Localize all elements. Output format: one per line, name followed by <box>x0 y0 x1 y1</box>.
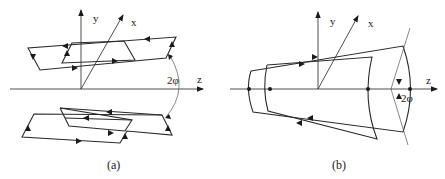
angle-arc-a: 2φ <box>165 54 179 119</box>
axes-b: y x z <box>230 12 437 89</box>
arrow-icon <box>72 65 78 71</box>
arrow-icon <box>25 125 31 131</box>
z-axis-label: z <box>426 74 431 86</box>
arrow-icon <box>62 43 68 49</box>
y-axis-label: y <box>330 15 336 27</box>
axis-crossing-dot <box>408 87 412 91</box>
arrow-icon <box>122 133 128 139</box>
arrow-icon <box>83 115 89 121</box>
x-axis-label: x <box>131 16 137 28</box>
arrow-icon <box>108 130 114 136</box>
axis-crossing-dot <box>366 87 370 91</box>
arrow-icon <box>30 54 36 60</box>
figure-canvas: y x z <box>0 0 445 179</box>
x-axis <box>318 16 358 89</box>
arrow-icon <box>165 125 171 131</box>
x-axis-label: x <box>368 17 374 29</box>
panel-a: y x z <box>10 10 203 172</box>
lower-loops-a <box>22 108 172 144</box>
axis-crossing-dot <box>247 87 251 91</box>
axis-crossing-dot <box>268 87 272 91</box>
y-axis-label: y <box>93 12 99 24</box>
x-axis <box>81 15 123 89</box>
arrow-icon <box>144 36 150 42</box>
arrow-icon <box>296 120 302 126</box>
angle-label-a: 2φ <box>167 74 179 86</box>
caption-b: (b) <box>332 158 346 172</box>
z-axis-label: z <box>197 73 202 85</box>
upper-loops-a <box>28 36 176 71</box>
panel-b: y x z 2φ (b) <box>230 12 437 172</box>
angle-label-b: 2φ <box>401 92 413 104</box>
caption-a: (a) <box>107 158 120 172</box>
arrow-icon <box>76 138 82 144</box>
arrow-icon <box>64 50 70 56</box>
arrow-icon <box>312 54 318 60</box>
